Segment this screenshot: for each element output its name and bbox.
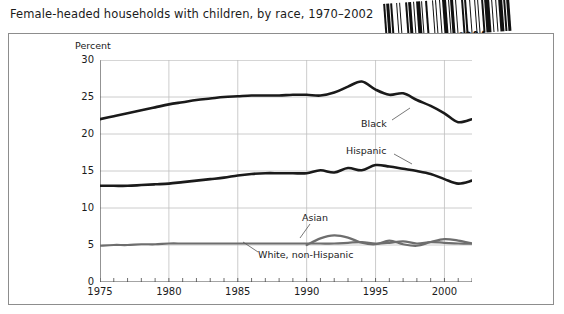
y-axis-tick-label: 25 (72, 91, 94, 102)
y-axis-tick-label: 30 (72, 54, 94, 65)
x-axis-tick-label: 1980 (149, 286, 189, 297)
page-title: Female-headed households with children, … (10, 6, 373, 22)
series-label-asian: Asian (302, 212, 328, 223)
x-axis-tick-label: 2000 (424, 286, 464, 297)
x-axis-tick-label: 1990 (287, 286, 327, 297)
y-axis-tick-label: 10 (72, 202, 94, 213)
x-axis-tick-label: 1985 (218, 286, 258, 297)
chart-page: Female-headed households with children, … (0, 0, 564, 314)
y-axis-tick-label: 5 (72, 239, 94, 250)
series-label-black: Black (361, 118, 387, 129)
series-label-hispanic: Hispanic (346, 145, 386, 156)
x-axis-tick-label: 1975 (80, 286, 120, 297)
y-axis-tick-label: 15 (72, 165, 94, 176)
y-axis-title: Percent (75, 40, 111, 51)
series-label-white-non-hispanic: White, non-Hispanic (258, 249, 353, 260)
x-axis-tick-label: 1995 (356, 286, 396, 297)
y-axis-tick-label: 20 (72, 128, 94, 139)
